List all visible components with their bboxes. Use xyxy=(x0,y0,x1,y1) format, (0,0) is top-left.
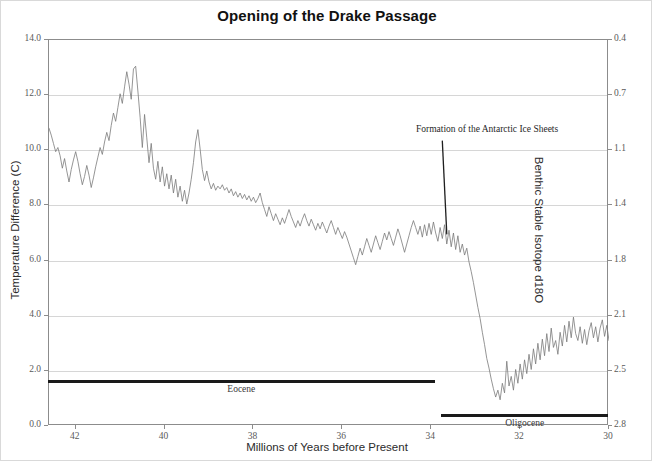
x-axis-tickmark xyxy=(341,425,342,429)
temperature-difference-line xyxy=(49,66,609,400)
y-axis-right-tick-label: 2.1 xyxy=(614,309,652,319)
epoch-label-eocene: Eocene xyxy=(8,384,475,394)
plot-area xyxy=(48,39,608,425)
y-axis-left-tick-label: 0.0 xyxy=(1,419,41,429)
y-axis-left-tick-label: 10.0 xyxy=(1,143,41,153)
y-axis-left-tick-label: 6.0 xyxy=(1,254,41,264)
y-axis-left-tickmark xyxy=(44,149,48,150)
epoch-bar-oligocene xyxy=(441,414,608,417)
epoch-bar-eocene xyxy=(48,380,435,383)
y-axis-left-tickmark xyxy=(44,94,48,95)
chart-title: Opening of the Drake Passage xyxy=(1,7,652,24)
y-axis-right-tick-label: 1.1 xyxy=(614,143,652,153)
y-axis-left-tick-label: 4.0 xyxy=(1,309,41,319)
y-axis-right-tick-label: 0.7 xyxy=(614,88,652,98)
y-axis-left-tick-label: 14.0 xyxy=(1,33,41,43)
x-axis-tick-label: 34 xyxy=(410,431,450,441)
y-axis-right-tickmark xyxy=(608,315,612,316)
y-axis-right-tickmark xyxy=(608,204,612,205)
x-axis-tick-label: 40 xyxy=(144,431,184,441)
y-axis-left-tickmark xyxy=(44,204,48,205)
x-axis-tickmark xyxy=(252,425,253,429)
x-axis-tickmark xyxy=(75,425,76,429)
y-axis-left-tickmark xyxy=(44,370,48,371)
x-axis-tick-label: 30 xyxy=(588,431,628,441)
y-axis-left-tickmark xyxy=(44,260,48,261)
y-axis-left-title-text: Temperature Difference (C) xyxy=(9,160,21,299)
annotation-leader-line xyxy=(442,141,447,235)
y-axis-left-title: Temperature Difference (C) xyxy=(9,130,21,330)
y-axis-left-tick-label: 12.0 xyxy=(1,88,41,98)
y-axis-right-tickmark xyxy=(608,39,612,40)
y-axis-left-tickmark xyxy=(44,315,48,316)
y-axis-left-tick-label: 2.0 xyxy=(1,364,41,374)
y-axis-right-title: Benthic Stable Isotope d18O xyxy=(533,130,545,330)
x-axis-tickmark xyxy=(164,425,165,429)
x-axis-tick-label: 42 xyxy=(55,431,95,441)
x-axis-title: Millions of Years before Present xyxy=(1,441,652,453)
y-axis-right-title-text: Benthic Stable Isotope d18O xyxy=(533,157,545,303)
y-axis-right-tick-label: 2.5 xyxy=(614,364,652,374)
x-axis-tick-label: 32 xyxy=(499,431,539,441)
y-axis-left-tick-label: 8.0 xyxy=(1,198,41,208)
y-axis-right-tickmark xyxy=(608,260,612,261)
y-axis-right-tickmark xyxy=(608,370,612,371)
y-axis-left-tickmark xyxy=(44,425,48,426)
chart-figure: Opening of the Drake Passage 0.02.04.06.… xyxy=(0,0,652,461)
y-axis-right-tick-label: 1.8 xyxy=(614,254,652,264)
y-axis-right-tick-label: 1.4 xyxy=(614,198,652,208)
epoch-label-oligocene: Oligocene xyxy=(401,418,648,428)
annotation-label: Formation of the Antarctic Ice Sheets xyxy=(416,124,558,134)
x-axis-tick-label: 36 xyxy=(321,431,361,441)
y-axis-right-tickmark xyxy=(608,94,612,95)
y-axis-right-tick-label: 0.4 xyxy=(614,33,652,43)
y-axis-right-tickmark xyxy=(608,149,612,150)
data-series-layer xyxy=(49,40,609,426)
y-axis-left-tickmark xyxy=(44,39,48,40)
x-axis-tick-label: 38 xyxy=(232,431,272,441)
